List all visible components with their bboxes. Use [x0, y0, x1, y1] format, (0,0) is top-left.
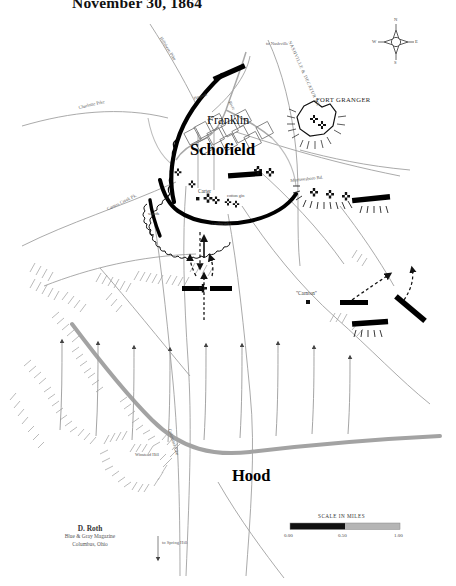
commander-label-schofield: Schofield [190, 140, 255, 160]
carter-house-symbol [196, 197, 199, 200]
place-label-winstead-hill: Winstead Hill [130, 452, 164, 457]
place-label-woods: woods [148, 211, 159, 216]
commander-label-hood: Hood [232, 466, 271, 486]
compass-label-n: N [394, 17, 397, 22]
compass-label-s: S [394, 60, 397, 65]
map-canvas [0, 0, 456, 586]
road-label-to-spring-hill: to Spring Hill [162, 540, 187, 545]
road-label-to-nashville: to Nashville [266, 41, 288, 46]
assault-arrow [200, 234, 208, 258]
credit-city: Columbus, Ohio [42, 541, 138, 549]
place-label-franklin: Franklin [207, 113, 249, 128]
carnton-symbol [306, 300, 310, 304]
scale-tick-2: 1.00 [394, 533, 403, 538]
union-breastworks [143, 75, 296, 259]
scale-tick-0: 0.00 [284, 533, 293, 538]
place-label-carnton: "Carnton" [296, 290, 317, 296]
place-label-earthworks: earthworks [212, 221, 231, 226]
battle-cross-markers [175, 166, 350, 292]
credit-block: D. Roth Blue & Gray Magazine Columbus, O… [42, 524, 138, 549]
place-label-fort-granger: FORT GRANGER [316, 96, 360, 104]
scale-bar-title: SCALE IN MILES [318, 513, 365, 519]
scale-tick-1: 0.50 [338, 533, 347, 538]
battle-map: November 30, 1864 [0, 0, 456, 586]
place-label-cotton-gin: cotton gin [227, 193, 244, 198]
scale-bar-graphic [290, 523, 400, 530]
compass-label-w: W [372, 39, 376, 44]
compass-rose [378, 24, 414, 60]
place-label-carter: Carter [198, 188, 211, 194]
ridge-line [72, 324, 440, 453]
confederate-advance-columns [60, 340, 350, 442]
compass-label-e: E [415, 39, 418, 44]
fort-granger-earthwork [287, 101, 346, 149]
credit-author: D. Roth [42, 524, 138, 533]
credit-magazine: Blue & Gray Magazine [42, 533, 138, 541]
